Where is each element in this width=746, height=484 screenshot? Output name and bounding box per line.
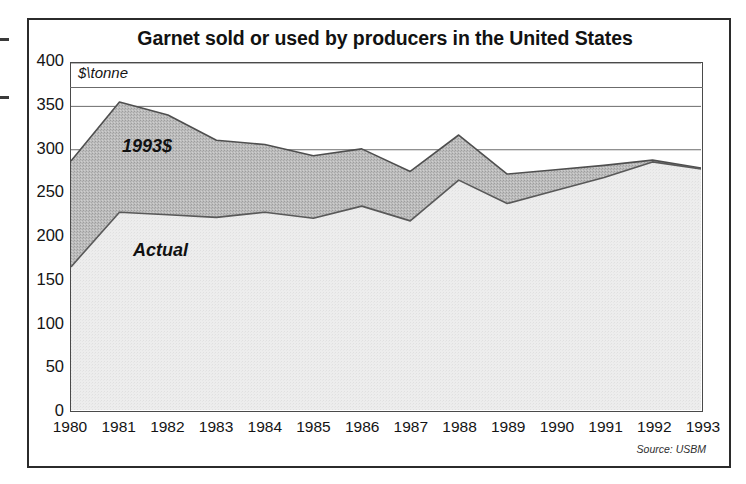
y-axis-tick-label: 350 bbox=[16, 95, 64, 114]
x-axis-tick-label: 1984 bbox=[239, 418, 291, 436]
chart-plot-svg bbox=[71, 63, 701, 410]
chart-title: Garnet sold or used by producers in the … bbox=[55, 27, 715, 50]
x-axis-tick-label: 1985 bbox=[287, 418, 339, 436]
x-axis-tick-label: 1980 bbox=[44, 418, 96, 436]
series-label-actual: Actual bbox=[133, 240, 188, 261]
y-axis-tick-label: 200 bbox=[16, 226, 64, 245]
x-axis-tick-label: 1983 bbox=[190, 418, 242, 436]
x-axis-tick-label: 1988 bbox=[434, 418, 486, 436]
y-axis-tick-label: 150 bbox=[16, 270, 64, 289]
x-axis-tick-label: 1981 bbox=[93, 418, 145, 436]
y-axis-tick-label: 300 bbox=[16, 139, 64, 158]
y-axis-tick-label: 400 bbox=[16, 51, 64, 70]
unit-label: $\tonne bbox=[78, 64, 128, 81]
x-axis-tick-label: 1990 bbox=[531, 418, 583, 436]
scan-edge-artifact-top bbox=[0, 38, 9, 41]
x-axis-tick-label: 1987 bbox=[385, 418, 437, 436]
y-axis-tick-label: 50 bbox=[16, 357, 64, 376]
x-axis-tick-label: 1993 bbox=[677, 418, 729, 436]
y-axis-tick-label: 250 bbox=[16, 182, 64, 201]
scan-edge-artifact-bottom bbox=[0, 96, 9, 99]
plot-area bbox=[70, 62, 703, 412]
series-label-1993-dollars: 1993$ bbox=[122, 136, 172, 157]
x-axis-tick-label: 1992 bbox=[628, 418, 680, 436]
x-axis-tick-label: 1982 bbox=[141, 418, 193, 436]
y-axis-tick-label: 100 bbox=[16, 314, 64, 333]
figure-container: Garnet sold or used by producers in the … bbox=[0, 0, 746, 484]
x-axis-tick-label: 1989 bbox=[482, 418, 534, 436]
x-axis-tick-label: 1986 bbox=[336, 418, 388, 436]
x-axis-tick-label: 1991 bbox=[580, 418, 632, 436]
source-note: Source: USBM bbox=[637, 443, 706, 455]
